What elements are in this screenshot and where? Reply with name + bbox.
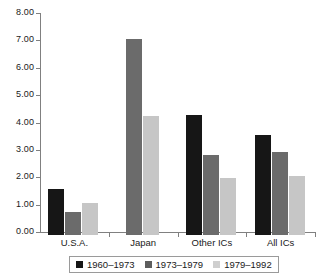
legend-swatch-icon (145, 261, 152, 268)
legend-item: 1979–1992 (213, 259, 272, 270)
y-axis-tick-label: 2.00 (16, 171, 34, 182)
y-axis-tick-label: 6.00 (16, 62, 34, 73)
y-axis-tick-label: 3.00 (16, 144, 34, 155)
legend-item: 1973–1979 (145, 259, 204, 270)
bar (289, 176, 305, 235)
category-label: Other ICs (178, 237, 247, 249)
legend-item: 1960–1973 (76, 259, 135, 270)
plot-area: 0.001.002.003.004.005.006.007.008.00 (40, 10, 315, 235)
x-axis-separator (315, 232, 316, 237)
bar (272, 152, 288, 235)
y-axis-tick-label: 7.00 (16, 34, 34, 45)
category-label: Japan (109, 237, 178, 249)
legend-swatch-icon (213, 261, 220, 268)
legend-swatch-icon (76, 261, 83, 268)
bar-group (40, 13, 315, 235)
y-axis-tick-label: 1.00 (16, 199, 34, 210)
legend-label: 1960–1973 (87, 259, 135, 270)
bar (255, 135, 271, 235)
category-label: All ICs (246, 237, 315, 249)
bar-chart: 0.001.002.003.004.005.006.007.008.00 U.S… (0, 0, 323, 278)
y-axis-tick-label: 8.00 (16, 7, 34, 18)
category-label: U.S.A. (40, 237, 109, 249)
y-axis-tick-label: 5.00 (16, 89, 34, 100)
y-axis-tick-label: 4.00 (16, 117, 34, 128)
legend-label: 1979–1992 (224, 259, 272, 270)
y-axis-tick-label: 0.00 (16, 226, 34, 237)
chart-legend: 1960–19731973–19791979–1992 (69, 256, 279, 273)
legend-label: 1973–1979 (156, 259, 204, 270)
